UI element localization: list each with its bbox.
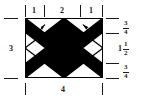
bottom-tick-right [102,83,103,95]
top-dimension-label-3: 1 [89,7,93,15]
bottom-tick-left [25,83,26,95]
right-dimension-label-3: 3 4 [122,64,129,80]
top-dimension-label-2: 2 [60,7,64,15]
right-dim-2-fraction: 1 2 [123,41,129,57]
right-dim-3-denominator: 4 [123,73,129,80]
right-dim-3-fraction: 3 4 [123,64,129,80]
right-tick-top [106,18,119,19]
right-dim-2-whole: 1 [118,45,122,53]
interior-arrow-right-label: 1 [82,31,86,38]
dimension-diagram: 1 2 1 3 [0,0,141,108]
right-dim-2-numerator: 1 [123,41,129,48]
top-tick-right [102,5,103,17]
left-tick-bottom [4,78,18,79]
right-tick-2 [106,63,119,64]
top-tick-2 [80,5,81,17]
right-dim-1-denominator: 4 [123,29,129,36]
right-dimension-label-1: 3 4 [122,20,129,36]
left-dimension-label: 3 [9,45,13,53]
right-dim-3-numerator: 3 [123,64,129,71]
right-dim-1-fraction: 3 4 [123,20,129,36]
top-tick-left [25,5,26,17]
bottom-dimension-label: 4 [61,86,65,94]
top-tick-1 [44,5,45,17]
interior-arrow-left-label: 1 [40,31,44,38]
right-tick-1 [106,33,119,34]
right-dim-2-denominator: 2 [123,50,129,57]
right-dimension-label-2: 1 1 2 [118,41,129,57]
left-tick-top [4,18,18,19]
quilt-pattern-box: 1 1 [25,18,103,78]
right-tick-bottom [106,78,119,79]
top-dimension-label-1: 1 [32,7,36,15]
right-dim-1-numerator: 3 [123,20,129,27]
interior-arrow-left-note: 1 1 [25,18,103,78]
